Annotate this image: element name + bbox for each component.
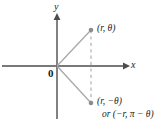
x-axis-label: x bbox=[131, 60, 135, 70]
y-axis-arrowhead bbox=[54, 13, 61, 20]
polar-coordinates-diagram: y x 0 (r, θ) (r, −θ) or (−r, π − θ) bbox=[0, 0, 163, 130]
lower-point-label: (r, −θ) bbox=[97, 97, 122, 107]
upper-point-marker bbox=[89, 28, 94, 33]
ray-to-upper-point bbox=[57, 30, 91, 66]
lower-point-alt-label: or (−r, π − θ) bbox=[102, 110, 154, 120]
ray-to-lower-point bbox=[57, 66, 91, 103]
upper-point-label: (r, θ) bbox=[97, 24, 115, 34]
lower-point-marker bbox=[89, 101, 94, 106]
origin-label: 0 bbox=[48, 68, 54, 79]
x-axis-arrowhead bbox=[123, 63, 130, 70]
y-axis-label: y bbox=[54, 2, 58, 12]
